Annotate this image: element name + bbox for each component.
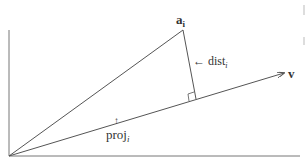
- vector-v-line: [9, 73, 284, 156]
- right-angle-mark: [188, 92, 194, 101]
- label-a: ai: [176, 12, 186, 29]
- label-proj: proji: [106, 127, 130, 144]
- projection-diagram: ai ← disti v ↑ proji: [0, 0, 305, 157]
- label-v: v: [288, 66, 295, 81]
- label-dist: ← disti: [193, 54, 228, 70]
- vector-a-line: [9, 30, 183, 156]
- projection-arrow: ↑: [114, 115, 119, 126]
